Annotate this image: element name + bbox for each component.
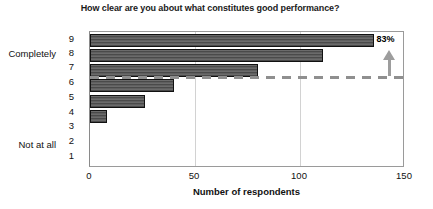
bars-layer (90, 32, 403, 166)
y-axis-anchor-low-label: Not at all (0, 140, 56, 150)
bar-8 (90, 49, 323, 62)
bar-9 (90, 34, 374, 47)
y-axis-tick-1: 1 (60, 151, 74, 161)
chart-title: How clear are you about what constitutes… (60, 2, 360, 14)
x-axis-title: Number of respondents (89, 186, 404, 197)
y-axis-tick-7: 7 (60, 62, 74, 72)
data-label-83-percent: 83% (377, 34, 395, 44)
bar-5 (90, 95, 145, 108)
y-axis-tick-2: 2 (60, 136, 74, 146)
y-axis-anchor-high-label: Completely (0, 49, 56, 59)
chart-container: How clear are you about what constitutes… (0, 0, 433, 209)
bar-6 (90, 79, 174, 92)
y-axis-tick-4: 4 (60, 107, 74, 117)
y-axis-tick-5: 5 (60, 92, 74, 102)
y-axis-tick-8: 8 (60, 48, 74, 58)
bar-7 (90, 64, 258, 77)
plot-area (89, 31, 404, 167)
bar-4 (90, 110, 107, 123)
y-axis-tick-6: 6 (60, 77, 74, 87)
x-axis-tick-0: 0 (74, 170, 104, 181)
x-axis-tick-100: 100 (284, 170, 314, 181)
y-axis-tick-9: 9 (60, 34, 74, 44)
y-axis-tick-3: 3 (60, 121, 74, 131)
threshold-dashed-line (90, 76, 403, 79)
x-axis-tick-50: 50 (179, 170, 209, 181)
x-axis-tick-150: 150 (389, 170, 419, 181)
